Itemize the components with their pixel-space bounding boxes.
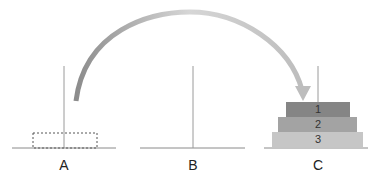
peg-label-c: C <box>313 157 323 173</box>
empty-slot-placeholder <box>33 133 97 148</box>
disk-1-label: 1 <box>315 103 321 115</box>
arrowhead-icon <box>295 86 311 101</box>
peg-label-b: B <box>188 157 197 173</box>
move-arrow <box>76 12 302 101</box>
disk-3-label: 3 <box>315 133 321 145</box>
disk-2-label: 2 <box>315 118 321 130</box>
hanoi-diagram: 1 2 3 <box>0 0 371 179</box>
peg-label-a: A <box>59 157 68 173</box>
